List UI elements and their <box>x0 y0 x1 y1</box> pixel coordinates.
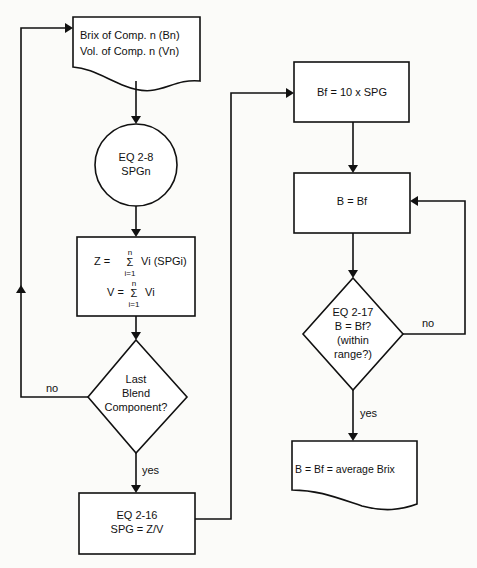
eq216-to-bf-connector <box>195 93 287 519</box>
v-lhs: V = <box>107 286 124 298</box>
b-eq-bf-label: B = Bf <box>337 195 368 207</box>
eq28-line1: EQ 2-8 <box>119 151 154 163</box>
decision2-line2: B = Bf? <box>335 320 371 332</box>
arrow-down-icon <box>131 332 141 340</box>
eq28-line2: SPGn <box>121 165 150 177</box>
bf-label: Bf = 10 x SPG <box>317 86 387 98</box>
eq216-process-node: EQ 2-16 SPG = Z/V <box>79 493 195 554</box>
no-loop-connector <box>21 28 88 397</box>
arrow-down-icon <box>131 229 141 237</box>
decision1-line3: Component? <box>105 401 168 413</box>
arrow-down-icon <box>348 433 358 441</box>
arrow-up-icon <box>16 285 26 293</box>
output-document-node: B = Bf = average Brix <box>292 441 417 510</box>
decision1-line1: Last <box>126 373 147 385</box>
arrow-right-icon <box>286 88 294 98</box>
decision2-line3: (within <box>337 334 369 346</box>
z-sigma-icon: Σ <box>127 256 134 268</box>
input-document-node: Brix of Comp. n (Bn) Vol. of Comp. n (Vn… <box>73 17 200 91</box>
z-rhs: Vi (SPGi) <box>141 255 187 267</box>
decision2-no-label: no <box>422 317 434 329</box>
z-lhs: Z = <box>94 255 110 267</box>
within-range-decision: EQ 2-17 B = Bf? (within range?) <box>303 278 403 390</box>
b-equals-bf-process-node: B = Bf <box>294 173 410 233</box>
v-sigma-bottom: i=1 <box>129 300 140 309</box>
flowchart: Brix of Comp. n (Bn) Vol. of Comp. n (Vn… <box>0 0 477 568</box>
input-doc-line1: Brix of Comp. n (Bn) <box>80 29 180 41</box>
input-doc-line2: Vol. of Comp. n (Vn) <box>80 45 179 57</box>
v-rhs: Vi <box>145 286 155 298</box>
arrow-down-icon <box>348 165 358 173</box>
arrow-down-icon <box>131 116 141 124</box>
decision1-line2: Blend <box>122 387 150 399</box>
decision1-no-label: no <box>46 382 58 394</box>
v-sigma-icon: Σ <box>131 287 138 299</box>
decision2-no-loop-connector <box>403 201 465 334</box>
eq28-circle-node: EQ 2-8 SPGn <box>95 124 177 206</box>
decision1-yes-label: yes <box>142 464 160 476</box>
arrow-down-icon <box>131 485 141 493</box>
decision2-line4: range?) <box>334 348 372 360</box>
decision2-line1: EQ 2-17 <box>333 306 374 318</box>
decision2-yes-label: yes <box>360 407 378 419</box>
summation-process-node: Z = n Σ i=1 Vi (SPGi) V = n Σ i=1 Vi <box>77 237 195 316</box>
eq216-line2: SPG = Z/V <box>111 523 165 535</box>
output-doc-label: B = Bf = average Brix <box>295 463 396 475</box>
bf-process-node: Bf = 10 x SPG <box>294 62 409 122</box>
arrow-left-icon <box>410 196 418 206</box>
arrow-right-icon <box>65 23 73 33</box>
last-blend-component-decision: Last Blend Component? <box>88 340 187 453</box>
eq216-line1: EQ 2-16 <box>117 509 158 521</box>
z-sigma-bottom: i=1 <box>125 269 136 278</box>
